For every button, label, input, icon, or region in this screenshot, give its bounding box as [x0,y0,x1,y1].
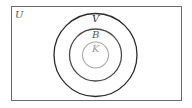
universe-label: U [15,9,24,20]
set-b-label: B [91,29,99,40]
set-k-label: K [91,43,100,54]
venn-diagram: U V B K [0,0,192,108]
